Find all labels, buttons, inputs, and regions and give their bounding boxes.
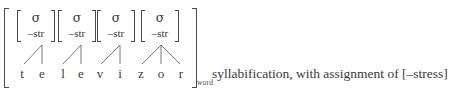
stress-feature-4: –str xyxy=(146,26,174,41)
segment-letter-8: o xyxy=(153,66,169,82)
segment-letter-3: l xyxy=(55,66,71,82)
syllable-matrix-3: σ –str xyxy=(97,10,135,42)
syllable-matrix-2: σ –str xyxy=(58,10,96,42)
syllable-rows-1: σ –str xyxy=(22,10,50,42)
segment-letter-9: r xyxy=(173,66,189,82)
stress-feature-3: –str xyxy=(102,26,130,41)
stress-feature-1: –str xyxy=(22,26,50,41)
word-bracket-right xyxy=(190,8,197,88)
syllable-matrix-4: σ –str xyxy=(141,10,179,42)
syllable-rows-3: σ –str xyxy=(102,10,130,42)
syllable-bracket-right-4 xyxy=(174,10,179,42)
syllable-bracket-right-1 xyxy=(50,10,55,42)
segment-letter-7: z xyxy=(133,66,149,82)
word-bracket-subscript: word xyxy=(197,78,213,87)
segment-letter-1: t xyxy=(14,66,30,82)
syllable-matrix-1: σ –str xyxy=(17,10,55,42)
sigma-node-3: σ xyxy=(102,10,130,26)
sigma-node-2: σ xyxy=(63,10,91,26)
syllable-bracket-right-3 xyxy=(130,10,135,42)
segment-letter-5: v xyxy=(92,66,108,82)
figure-caption: syllabification, with assignment of [–st… xyxy=(212,65,448,83)
sigma-node-4: σ xyxy=(146,10,174,26)
segment-letter-2: e xyxy=(34,66,50,82)
word-bracket-left xyxy=(4,8,11,88)
sigma-node-1: σ xyxy=(22,10,50,26)
segment-letter-6: i xyxy=(112,66,128,82)
syllable-bracket-right-2 xyxy=(91,10,96,42)
syllable-rows-2: σ –str xyxy=(63,10,91,42)
syllable-tree-figure: word σ –str σ –str σ –str σ –str xyxy=(0,0,461,101)
syllable-rows-4: σ –str xyxy=(146,10,174,42)
segment-letter-4: e xyxy=(73,66,89,82)
stress-feature-2: –str xyxy=(63,26,91,41)
